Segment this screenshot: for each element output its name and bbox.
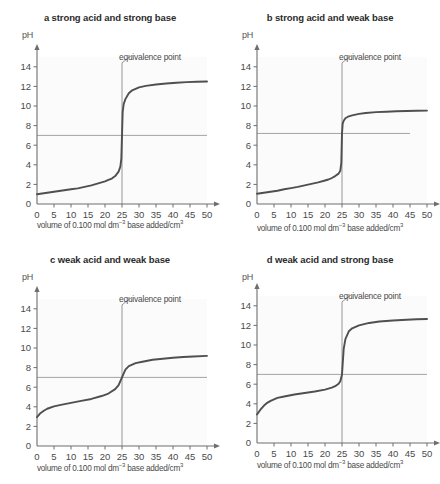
panel-d-plot: 0246810121405101520253035404550 [220, 242, 440, 484]
panel-d: d weak acid and strong base pH 024681012… [220, 242, 440, 484]
svg-text:2: 2 [246, 418, 251, 429]
svg-text:14: 14 [20, 61, 31, 72]
svg-text:10: 10 [240, 100, 251, 111]
svg-text:12: 12 [20, 81, 31, 92]
svg-text:50: 50 [202, 209, 213, 220]
svg-text:15: 15 [83, 451, 94, 462]
svg-text:25: 25 [117, 451, 128, 462]
svg-text:5: 5 [271, 448, 276, 459]
svg-text:8: 8 [246, 359, 251, 370]
panel-c-x-axis-label: volume of 0.100 mol dm−3 base added/cm3 [0, 464, 220, 473]
svg-text:35: 35 [371, 448, 382, 459]
svg-text:5: 5 [271, 209, 276, 220]
panel-a-x-axis-label: volume of 0.100 mol dm−3 base added/cm3 [0, 221, 220, 230]
panel-d-x-axis-label: volume of 0.100 mol dm−3 base added/cm3 [220, 461, 440, 470]
svg-text:6: 6 [246, 379, 251, 390]
svg-text:8: 8 [26, 362, 31, 373]
panel-a-plot: 0246810121405101520253035404550 [0, 0, 220, 242]
svg-text:10: 10 [20, 100, 31, 111]
svg-text:25: 25 [117, 209, 128, 220]
panel-c-equivalence-label: equivalence point [119, 294, 181, 304]
panel-a-equivalence-label: equivalence point [119, 52, 181, 62]
svg-text:30: 30 [134, 451, 145, 462]
svg-text:5: 5 [51, 451, 56, 462]
svg-text:4: 4 [26, 401, 31, 412]
svg-text:2: 2 [246, 179, 251, 190]
svg-text:45: 45 [405, 209, 416, 220]
svg-text:30: 30 [354, 448, 365, 459]
svg-text:50: 50 [422, 209, 433, 220]
panel-c-plot: 0246810121405101520253035404550 [0, 242, 220, 484]
svg-text:45: 45 [185, 451, 196, 462]
svg-text:8: 8 [246, 120, 251, 131]
svg-text:35: 35 [371, 209, 382, 220]
svg-text:12: 12 [20, 323, 31, 334]
panel-c: c weak acid and weak base pH 02468101214… [0, 242, 220, 484]
panel-b: b strong acid and weak base pH 024681012… [220, 0, 440, 242]
svg-text:40: 40 [168, 451, 179, 462]
svg-text:4: 4 [246, 159, 251, 170]
svg-text:0: 0 [254, 209, 259, 220]
svg-text:2: 2 [26, 179, 31, 190]
svg-text:0: 0 [34, 451, 39, 462]
svg-text:30: 30 [134, 209, 145, 220]
svg-text:30: 30 [354, 209, 365, 220]
panel-b-equivalence-label: equivalence point [339, 52, 401, 62]
svg-text:35: 35 [151, 451, 162, 462]
svg-text:0: 0 [26, 440, 31, 451]
svg-text:20: 20 [100, 209, 111, 220]
svg-text:14: 14 [20, 303, 31, 314]
svg-text:4: 4 [246, 398, 251, 409]
svg-text:25: 25 [337, 448, 348, 459]
svg-text:10: 10 [20, 342, 31, 353]
svg-text:15: 15 [303, 448, 314, 459]
svg-text:10: 10 [66, 451, 77, 462]
svg-text:15: 15 [303, 209, 314, 220]
svg-text:20: 20 [100, 451, 111, 462]
svg-text:0: 0 [246, 198, 251, 209]
titration-curves-figure: a strong acid and strong base pH 0246810… [0, 0, 440, 484]
panel-a: a strong acid and strong base pH 0246810… [0, 0, 220, 242]
svg-text:45: 45 [405, 448, 416, 459]
svg-text:6: 6 [246, 140, 251, 151]
svg-text:6: 6 [26, 140, 31, 151]
svg-text:40: 40 [168, 209, 179, 220]
svg-text:0: 0 [26, 198, 31, 209]
svg-text:50: 50 [202, 451, 213, 462]
panel-b-x-axis-label: volume of 0.100 mol dm−3 base added/cm3 [220, 224, 440, 233]
svg-text:40: 40 [388, 209, 399, 220]
svg-text:8: 8 [26, 120, 31, 131]
svg-text:10: 10 [66, 209, 77, 220]
svg-text:10: 10 [240, 339, 251, 350]
svg-text:50: 50 [422, 448, 433, 459]
svg-text:5: 5 [51, 209, 56, 220]
svg-text:20: 20 [320, 209, 331, 220]
svg-text:20: 20 [320, 448, 331, 459]
svg-text:6: 6 [26, 382, 31, 393]
svg-text:2: 2 [26, 421, 31, 432]
svg-text:12: 12 [240, 81, 251, 92]
svg-text:4: 4 [26, 159, 31, 170]
svg-text:35: 35 [151, 209, 162, 220]
svg-text:0: 0 [246, 437, 251, 448]
panel-d-equivalence-label: equivalence point [339, 291, 401, 301]
svg-text:25: 25 [337, 209, 348, 220]
svg-text:10: 10 [286, 209, 297, 220]
panel-b-plot: 0246810121405101520253035404550 [220, 0, 440, 242]
svg-text:0: 0 [254, 448, 259, 459]
svg-text:14: 14 [240, 61, 251, 72]
svg-text:40: 40 [388, 448, 399, 459]
svg-text:10: 10 [286, 448, 297, 459]
svg-text:14: 14 [240, 300, 251, 311]
svg-text:12: 12 [240, 320, 251, 331]
svg-text:15: 15 [83, 209, 94, 220]
svg-text:0: 0 [34, 209, 39, 220]
svg-text:45: 45 [185, 209, 196, 220]
